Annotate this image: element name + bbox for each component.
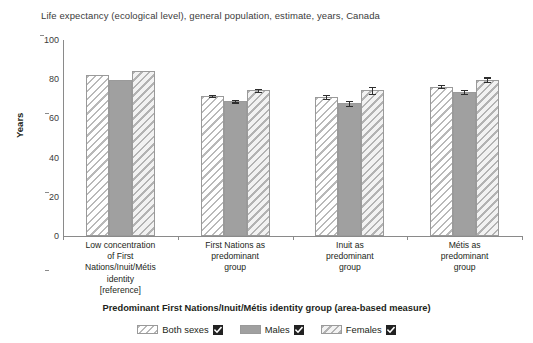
x-axis-category-label-line: [reference] — [63, 285, 178, 296]
y-axis-tick-label: 100 — [44, 35, 59, 45]
error-bar-cap — [232, 100, 239, 101]
error-bar-cap — [346, 106, 353, 107]
life-expectancy-bar-chart: Life expectancy (ecological level), gene… — [0, 0, 533, 343]
y-axis-title: Years — [14, 113, 25, 138]
error-bar-cap — [438, 88, 445, 89]
x-axis-category-label-line: group — [407, 262, 522, 273]
legend-label: Both sexes — [162, 324, 208, 335]
error-bar-cap — [346, 101, 353, 102]
y-axis-tick-mark — [45, 270, 49, 271]
bar-both-sexes[interactable] — [201, 96, 224, 236]
x-axis-tick-mark — [522, 236, 523, 240]
chart-title: Life expectancy (ecological level), gene… — [41, 10, 380, 21]
y-axis-tick-mark — [45, 113, 49, 114]
bar-females[interactable] — [361, 90, 384, 236]
error-bar-cap — [323, 99, 330, 100]
y-axis-tick-label: 0 — [54, 231, 59, 241]
legend-swatch-icon — [137, 325, 158, 334]
y-axis-tick-label: 40 — [49, 153, 59, 163]
error-bar-cap — [484, 82, 491, 83]
bar-both-sexes[interactable] — [86, 75, 109, 236]
error-bar-cap — [255, 89, 262, 90]
bar-group — [315, 40, 384, 236]
x-axis-category-label-line: Inuit as — [293, 240, 408, 251]
x-axis-category-label-line: predominant — [178, 251, 293, 262]
x-axis-category-label-line: Nations/Inuit/Métis — [63, 262, 178, 273]
bar-males[interactable] — [224, 101, 247, 236]
y-axis-tick-mark — [45, 192, 49, 193]
y-axis-tick-label: 80 — [49, 74, 59, 84]
error-bar-cap — [323, 95, 330, 96]
error-bar-cap — [438, 85, 445, 86]
x-axis-category-label-line: predominant — [293, 251, 408, 262]
x-axis-category-label: Low concentrationof FirstNations/Inuit/M… — [63, 240, 178, 296]
x-axis-category-label: Inuit aspredominantgroup — [293, 240, 408, 274]
x-axis-category-label: First Nations aspredominantgroup — [178, 240, 293, 274]
legend-item-females[interactable]: Females — [321, 324, 396, 335]
y-axis-tick-label: 60 — [49, 113, 59, 123]
bar-males[interactable] — [109, 80, 132, 236]
chart-legend: Both sexesMalesFemales — [0, 324, 533, 335]
error-bar-cap — [232, 102, 239, 103]
checkbox-checked-icon[interactable] — [213, 325, 223, 335]
x-axis-category-label-line: Métis as — [407, 240, 522, 251]
bar-both-sexes[interactable] — [315, 97, 338, 236]
x-axis-category-label-line: predominant — [407, 251, 522, 262]
bar-group — [430, 40, 499, 236]
x-axis-category-label-line: identity — [63, 274, 178, 285]
legend-label: Females — [346, 324, 382, 335]
legend-swatch-icon — [240, 325, 261, 334]
error-bar-cap — [209, 97, 216, 98]
x-axis-title: Predominant First Nations/Inuit/Métis id… — [0, 303, 533, 313]
x-axis-category-label-line: Low concentration — [63, 240, 178, 251]
bar-group — [86, 40, 155, 236]
legend-swatch-icon — [321, 325, 342, 334]
y-axis-tick-mark — [40, 35, 44, 36]
x-axis-category-label-line: of First — [63, 251, 178, 262]
error-bar-cap — [369, 94, 376, 95]
plot-area: 020406080100 — [63, 40, 522, 236]
bar-males[interactable] — [338, 103, 361, 236]
bar-females[interactable] — [132, 71, 155, 236]
legend-item-males[interactable]: Males — [240, 324, 304, 335]
y-axis-tick-label: 20 — [49, 192, 59, 202]
checkbox-checked-icon[interactable] — [386, 325, 396, 335]
error-bar-cap — [461, 90, 468, 91]
error-bar-cap — [484, 77, 491, 78]
legend-label: Males — [265, 324, 290, 335]
x-axis-category-label: Métis aspredominantgroup — [407, 240, 522, 274]
bar-group — [201, 40, 270, 236]
checkbox-checked-icon[interactable] — [294, 325, 304, 335]
bar-females[interactable] — [247, 90, 270, 236]
bar-both-sexes[interactable] — [430, 87, 453, 236]
error-bar-cap — [255, 92, 262, 93]
error-bar-cap — [369, 87, 376, 88]
error-bar-cap — [461, 94, 468, 95]
legend-item-both-sexes[interactable]: Both sexes — [137, 324, 222, 335]
bar-females[interactable] — [476, 80, 499, 236]
x-axis-category-label-line: group — [293, 262, 408, 273]
x-axis-category-label-line: First Nations as — [178, 240, 293, 251]
x-axis-category-label-line: group — [178, 262, 293, 273]
bar-males[interactable] — [453, 92, 476, 236]
